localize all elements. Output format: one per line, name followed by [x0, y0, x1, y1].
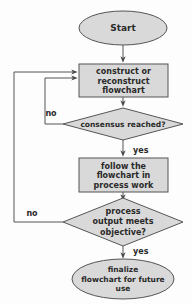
node-finalize[interactable]: finalize flowchart for future use — [72, 259, 174, 299]
node-consensus-line-0: consensus reached? — [80, 120, 165, 129]
node-consensus[interactable]: consensus reached? — [63, 108, 183, 140]
flowchart-canvas: Start construct or reconstruct flowchart… — [0, 0, 192, 305]
edge-label-consensus-yes: yes — [133, 146, 149, 155]
node-start[interactable]: Start — [79, 11, 167, 45]
node-start-line-0: Start — [110, 23, 136, 33]
edge-label-objective-yes: yes — [133, 247, 149, 256]
edge-label-objective-no: no — [26, 209, 38, 218]
node-objective[interactable]: process output meets objective? — [63, 198, 183, 246]
node-objective-line-2: objective? — [100, 228, 146, 237]
flowchart-svg: Start construct or reconstruct flowchart… — [0, 0, 192, 305]
node-construct-line-1: reconstruct — [97, 77, 149, 86]
node-follow-line-0: follow the — [101, 162, 147, 171]
node-finalize-line-0: finalize — [108, 265, 139, 274]
node-construct-line-0: construct or — [96, 67, 151, 76]
node-finalize-line-1: flowchart for future — [81, 275, 164, 284]
node-objective-line-1: output meets — [93, 217, 154, 226]
node-follow[interactable]: follow the flowchart in process work — [79, 158, 168, 192]
node-objective-line-0: process — [106, 207, 141, 216]
edge-label-consensus-no: no — [45, 109, 57, 118]
node-follow-line-2: process work — [94, 181, 154, 190]
node-construct[interactable]: construct or reconstruct flowchart — [79, 64, 168, 97]
node-construct-line-2: flowchart — [102, 86, 145, 95]
node-follow-line-1: flowchart in — [97, 171, 151, 180]
node-finalize-line-2: use — [116, 284, 131, 293]
edge-objective-no-loop — [14, 72, 75, 222]
